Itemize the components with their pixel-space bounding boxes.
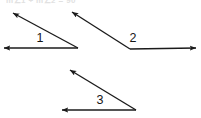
angles-diagram-svg: 1 2 3 [0, 0, 201, 118]
angle-1-group: 1 [4, 13, 78, 48]
angle-3-group: 3 [62, 70, 136, 110]
angle-1-label: 1 [37, 31, 44, 45]
angle-1-upper-left-ray [13, 13, 78, 48]
angle-2-horizontal-right-ray [130, 48, 196, 49]
angle-2-upper-left-ray [72, 12, 130, 49]
angle-2-label: 2 [130, 31, 137, 45]
angles-figure: m∠1 + m∠2 = 90 1 2 3 [0, 0, 201, 118]
angle-3-label: 3 [97, 93, 104, 107]
angle-2-group: 2 [72, 12, 196, 49]
